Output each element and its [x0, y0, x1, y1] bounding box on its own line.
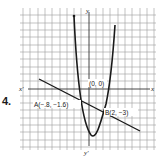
y-prime-axis-label: y' [83, 149, 89, 157]
x-prime-axis-label: x' [18, 85, 24, 93]
point-b-label: B(2, −3) [105, 109, 128, 117]
point-a-label: A(−.8, −1.6) [34, 101, 68, 109]
coordinate-graph: y y' x' x (0, 0) A(−.8, −1.6) B(2, −3) [0, 0, 164, 163]
origin-label: (0, 0) [89, 80, 104, 88]
